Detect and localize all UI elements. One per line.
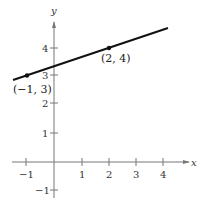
x-axis-label: x [191,157,197,168]
point-label: (−1, 3) [13,83,52,96]
y-tick-label: 1 [42,128,48,139]
y-tick-label: 2 [42,98,48,109]
x-tick-label: 2 [106,169,112,180]
y-tick-label: −1 [35,185,50,196]
x-tick-label: 3 [133,169,139,180]
point-label: (2, 4) [101,52,131,65]
y-tick-label: 3 [42,70,48,81]
data-point [107,46,111,50]
x-tick-label: −1 [19,169,34,180]
chart: x y −1 1 2 3 4 4 3 2 1 −1 (−1, 3) (2, 4) [0,0,197,212]
data-point [25,73,29,77]
x-tick-label: 1 [79,169,85,180]
x-tick-label: 4 [160,169,166,180]
data-line [13,28,168,80]
y-tick-label: 4 [42,43,48,54]
y-axis-label: y [50,5,57,16]
